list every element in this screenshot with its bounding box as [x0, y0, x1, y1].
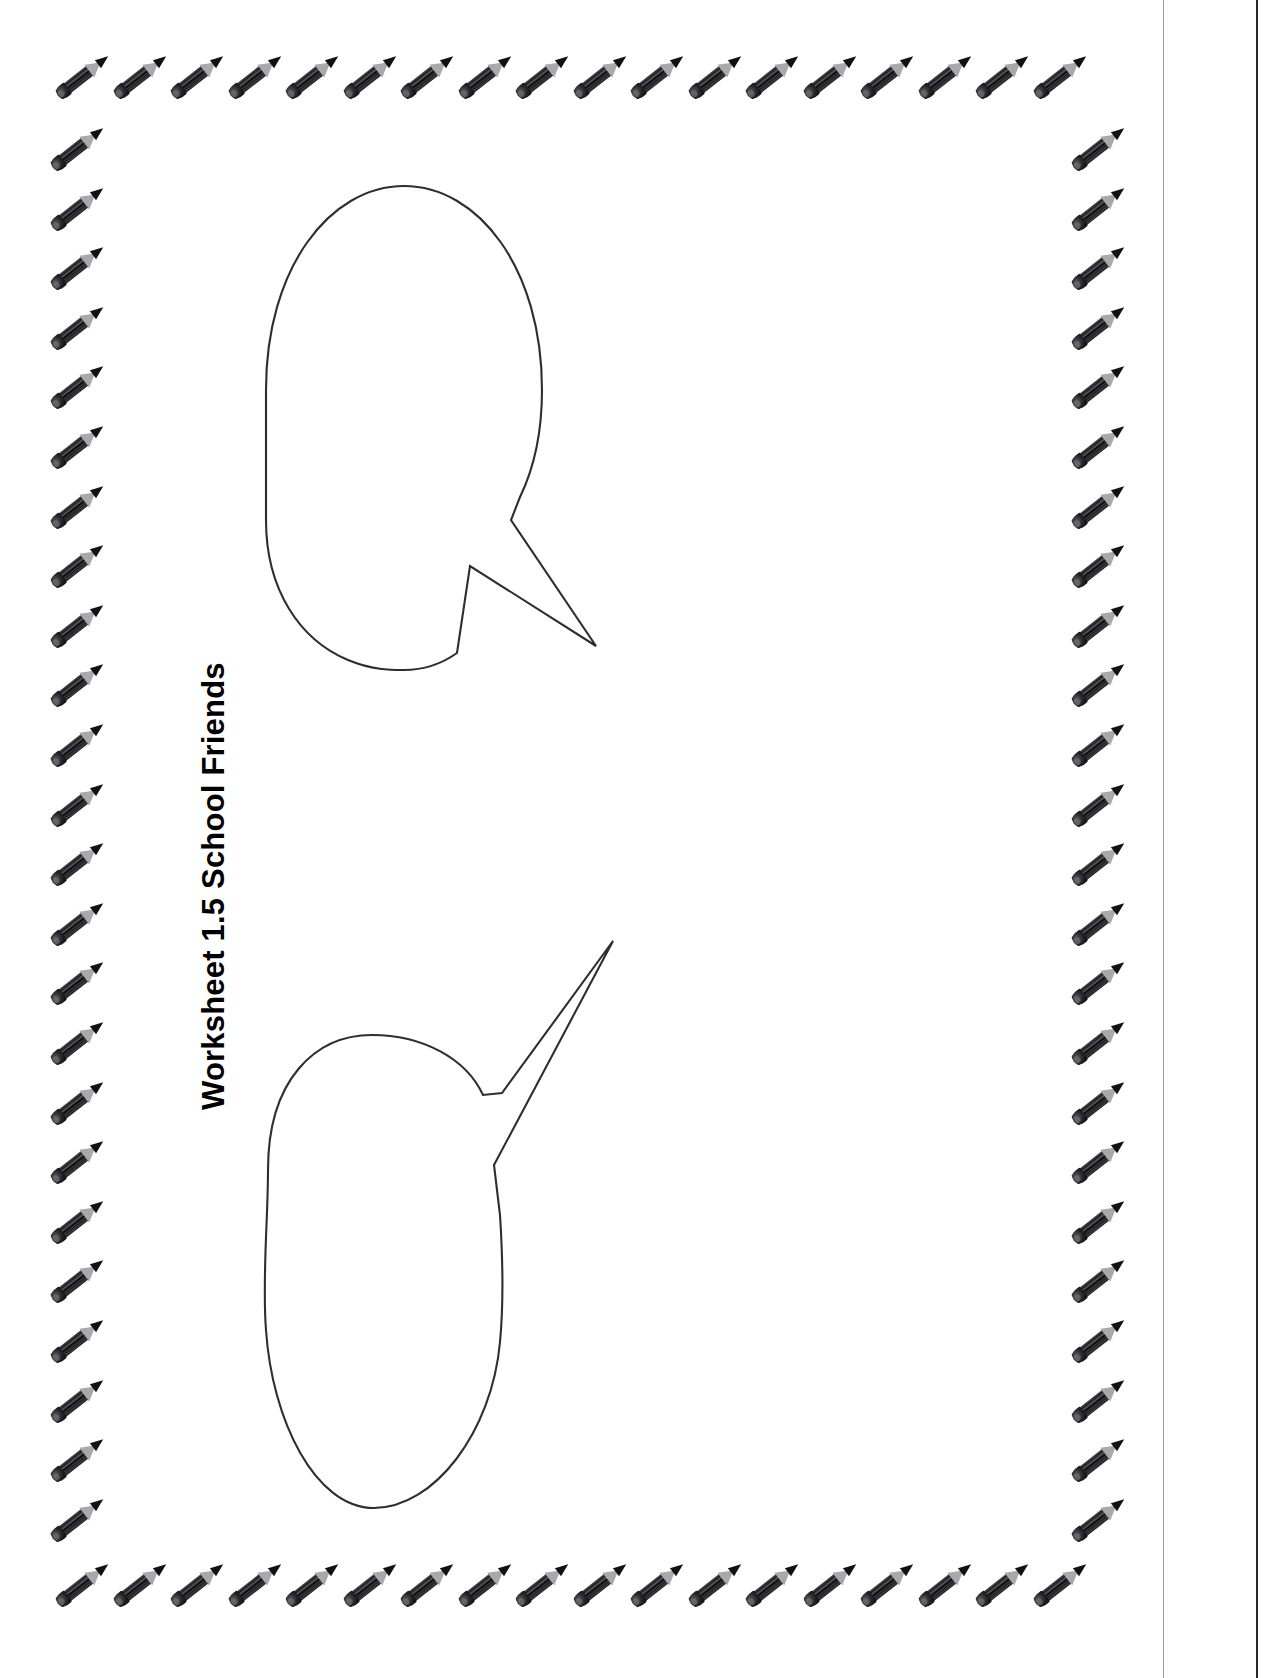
pencil-icon [1031, 1559, 1090, 1610]
pencil-icon [49, 361, 108, 412]
pencil-icon [571, 1559, 630, 1610]
pencil-icon [49, 599, 108, 650]
pencil-icon [49, 1017, 108, 1068]
page-title: Worksheet 1.5 School Friends [196, 662, 232, 1110]
pencil-icon [1070, 1493, 1129, 1544]
pencil-icon [1070, 182, 1129, 233]
pencil-icon [629, 1559, 688, 1610]
pencil-icon [49, 897, 108, 948]
pencil-icon [49, 719, 108, 770]
pencil-icon [399, 1559, 458, 1610]
pencil-icon [686, 1559, 745, 1610]
pencil-icon [284, 1559, 343, 1610]
pencil-icon [111, 1559, 170, 1610]
pencil-icon [1070, 599, 1129, 650]
pencil-icon [744, 1559, 803, 1610]
pencil-icon [629, 51, 688, 102]
pencil-icon [111, 51, 170, 102]
pencil-icon [974, 1559, 1033, 1610]
pencil-icon [341, 51, 400, 102]
pencil-icon [49, 1255, 108, 1306]
pencil-icon [49, 1315, 108, 1366]
pencil-icon [1070, 1076, 1129, 1127]
pencil-icon [1070, 361, 1129, 412]
pencil-icon [859, 51, 918, 102]
pencil-icon [916, 1559, 975, 1610]
pencil-icon [514, 51, 573, 102]
pencil-icon [49, 1374, 108, 1425]
pencil-icon [456, 51, 515, 102]
pencil-icon [801, 1559, 860, 1610]
pencil-icon [54, 51, 113, 102]
pencil-icon [1070, 1136, 1129, 1187]
pencil-icon [1070, 1315, 1129, 1366]
pencil-icon [1070, 778, 1129, 829]
pencil-icon [801, 51, 860, 102]
pencil-icon [916, 51, 975, 102]
pencil-icon [169, 51, 228, 102]
pencil-icon [49, 182, 108, 233]
pencil-icon [49, 540, 108, 591]
pencil-icon [974, 51, 1033, 102]
pencil-icon [514, 1559, 573, 1610]
pencil-icon [399, 51, 458, 102]
pencil-icon [226, 51, 285, 102]
pencil-icon [1070, 1255, 1129, 1306]
pencil-icon [49, 123, 108, 174]
pencil-border [0, 0, 1268, 1678]
pencil-icon [49, 659, 108, 710]
pencil-icon [1070, 301, 1129, 352]
pencil-icon [169, 1559, 228, 1610]
pencil-icon [1070, 480, 1129, 531]
pencil-icon [571, 51, 630, 102]
pencil-icon [1070, 897, 1129, 948]
pencil-icon [1070, 659, 1129, 710]
pencil-icon [49, 1434, 108, 1485]
pencil-icon [1070, 242, 1129, 293]
pencil-icon [49, 1493, 108, 1544]
pencil-icon [49, 778, 108, 829]
pencil-icon [54, 1559, 113, 1610]
pencil-icon [49, 242, 108, 293]
pencil-icon [1070, 1374, 1129, 1425]
pencil-icon [744, 51, 803, 102]
pencil-icon [226, 1559, 285, 1610]
pencil-icon [1070, 719, 1129, 770]
pencil-icon [1070, 1195, 1129, 1246]
pencil-icon [1070, 957, 1129, 1008]
worksheet-page: Worksheet 1.5 School Friends [0, 0, 1268, 1678]
pencil-icon [1070, 540, 1129, 591]
pencil-icon [49, 957, 108, 1008]
pencil-icon [49, 301, 108, 352]
pencil-icon [1070, 838, 1129, 889]
pencil-icon [49, 480, 108, 531]
pencil-icon [1070, 1434, 1129, 1485]
pencil-icon [1070, 1017, 1129, 1068]
pencil-icon [456, 1559, 515, 1610]
pencil-icon [1070, 421, 1129, 472]
pencil-icon [49, 421, 108, 472]
pencil-icon [341, 1559, 400, 1610]
pencil-icon [49, 1195, 108, 1246]
pencil-icon [284, 51, 343, 102]
pencil-icon [49, 838, 108, 889]
pencil-icon [859, 1559, 918, 1610]
pencil-icon [49, 1136, 108, 1187]
pencil-icon [1070, 123, 1129, 174]
pencil-icon [686, 51, 745, 102]
pencil-icon [1031, 51, 1090, 102]
pencil-icon [49, 1076, 108, 1127]
